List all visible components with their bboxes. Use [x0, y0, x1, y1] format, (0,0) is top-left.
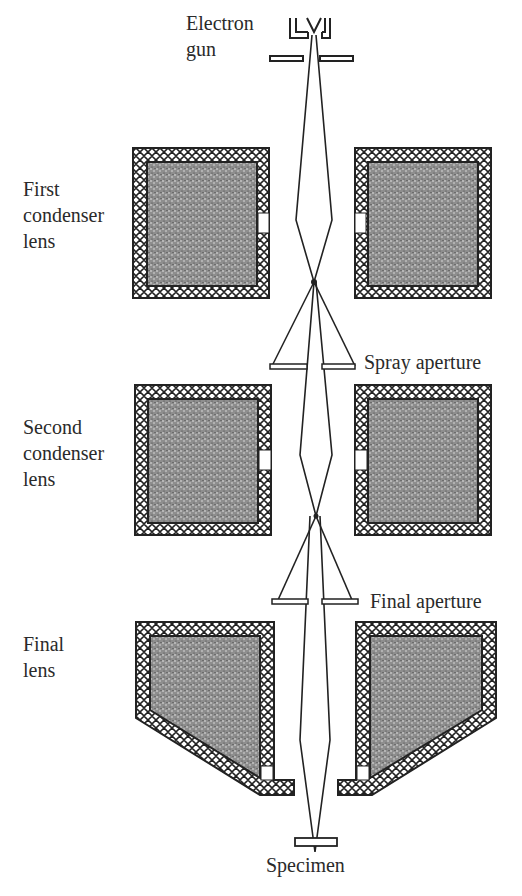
final-aperture: [272, 599, 358, 604]
label-specimen: Specimen: [266, 852, 345, 878]
electron-beam: [272, 35, 355, 852]
final-lens: [136, 622, 496, 795]
crossover-point-1: [311, 279, 317, 285]
label-electron-gun: Electron gun: [186, 10, 254, 62]
label-spray-aperture: Spray aperture: [364, 349, 481, 375]
crossover-point-2: [314, 514, 319, 519]
specimen-holder: [295, 838, 337, 846]
spray-aperture: [270, 364, 355, 369]
label-first-condenser-lens: First condenser lens: [23, 176, 104, 254]
label-final-aperture: Final aperture: [370, 588, 482, 614]
label-final-lens: Final lens: [23, 631, 64, 683]
label-second-condenser-lens: Second condenser lens: [23, 414, 104, 492]
second-condenser-lens: [135, 385, 491, 535]
